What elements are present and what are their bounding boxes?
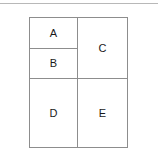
diagram-bottom-row: D E xyxy=(30,79,127,147)
diagram-bottom-left-column: D xyxy=(30,79,78,147)
diagram-bottom-right-column: E xyxy=(78,79,127,147)
diagram-top-row: A B C xyxy=(30,18,127,79)
region-cell-d: D xyxy=(30,79,77,147)
partition-diagram: A B C D E xyxy=(29,17,128,148)
region-cell-a: A xyxy=(30,18,77,49)
region-cell-e: E xyxy=(78,79,127,147)
region-cell-b: B xyxy=(30,49,77,78)
diagram-page: A B C D E xyxy=(0,0,158,160)
top-divider-rule xyxy=(0,3,158,4)
diagram-top-right-column: C xyxy=(78,18,127,78)
diagram-top-left-column: A B xyxy=(30,18,78,78)
region-cell-c: C xyxy=(78,18,127,78)
